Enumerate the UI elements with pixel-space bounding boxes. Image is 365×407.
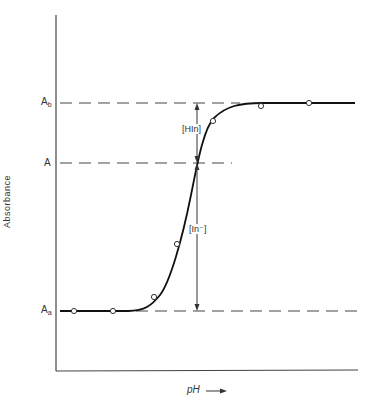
data-point	[210, 118, 215, 123]
x-axis	[56, 370, 358, 371]
data-point	[258, 103, 263, 108]
data-point	[306, 100, 311, 105]
label-a: A	[44, 157, 51, 168]
data-point	[151, 294, 156, 299]
absorbance-curve	[60, 103, 355, 311]
data-point	[174, 241, 179, 246]
titration-plot	[0, 0, 365, 407]
data-point	[110, 308, 115, 313]
x-axis-title: pH	[187, 384, 200, 395]
ph-arrow-icon	[220, 389, 227, 394]
label-ab: Ab	[41, 96, 52, 108]
annotation-in-minus: [In⁻]	[189, 224, 207, 234]
label-aa: Aa	[41, 304, 52, 316]
hin-arrowhead-up-icon	[195, 103, 200, 110]
in-minus-arrowhead-down-icon	[195, 304, 200, 311]
data-point	[71, 308, 76, 313]
in-minus-arrowhead-up-icon	[195, 163, 200, 170]
annotation-hin: [HIn]	[182, 124, 201, 134]
y-axis-title: Absorbance	[2, 175, 12, 228]
